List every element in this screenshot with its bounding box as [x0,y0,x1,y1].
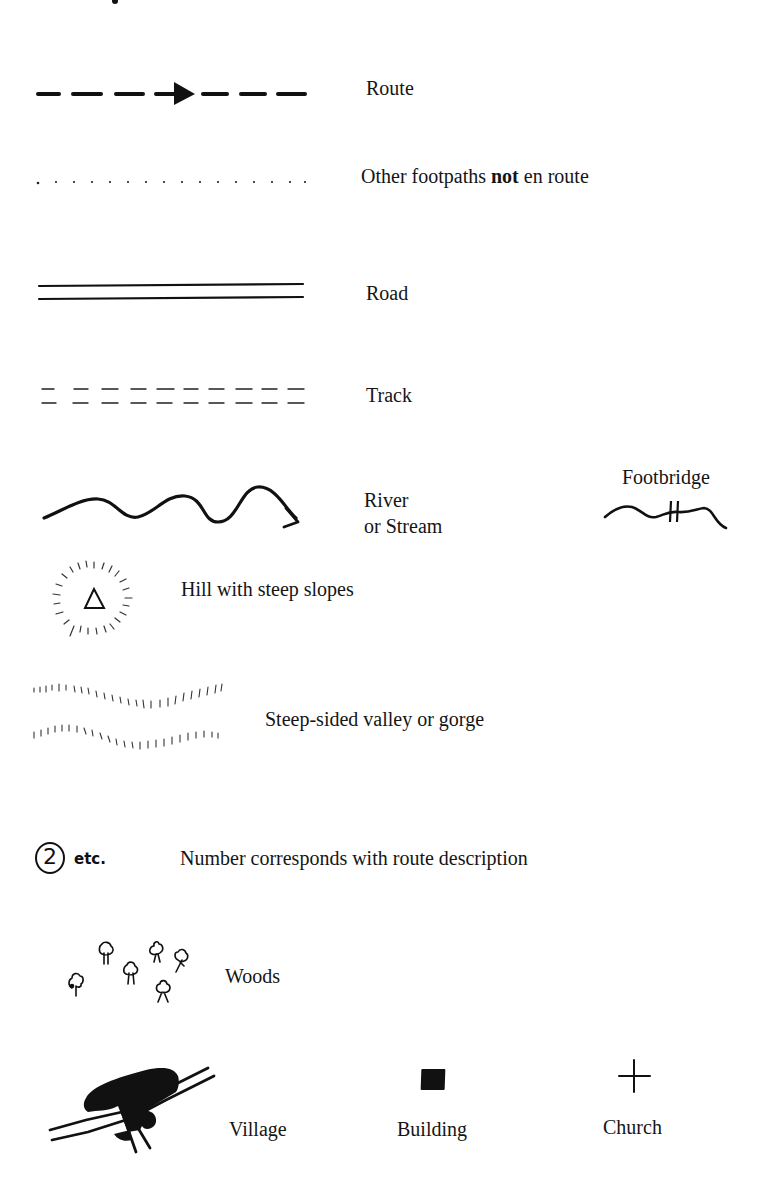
building-label: Building [397,1117,467,1141]
woods-label: Woods [225,964,280,988]
river-label: River or Stream [364,487,442,539]
valley-label: Steep-sided valley or gorge [265,707,484,731]
village-label: Village [229,1117,287,1141]
cropped-mark-icon [110,0,120,6]
route-label: Route [366,76,414,100]
church-label: Church [603,1115,662,1139]
route-symbol-icon [35,78,315,108]
footpath-label: Other footpaths not en route [361,164,589,188]
road-label: Road [366,281,408,305]
village-symbol-icon [46,1060,226,1156]
footbridge-label: Footbridge [622,465,710,489]
road-symbol-icon [37,280,307,302]
church-symbol-icon [617,1058,653,1094]
woods-symbol-icon [64,940,204,1010]
track-label: Track [366,383,412,407]
valley-symbol-icon [30,680,230,760]
building-symbol-icon [421,1069,446,1090]
circled-number-suffix: etc. [74,850,106,868]
river-symbol-icon [40,480,320,530]
footpath-symbol-icon [35,176,315,188]
number-label: Number corresponds with route descriptio… [180,846,528,870]
track-symbol-icon [40,384,310,406]
hill-symbol-icon [48,556,140,642]
hill-label: Hill with steep slopes [181,577,354,601]
circled-number-text: 2 [43,844,57,870]
footbridge-symbol-icon [600,497,735,533]
